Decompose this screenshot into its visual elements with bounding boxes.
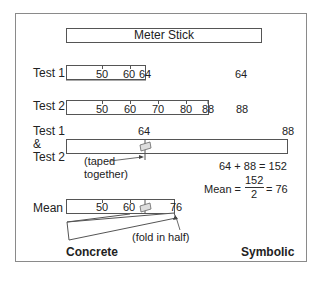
diagram-decorations — [0, 0, 319, 286]
arrow-icon — [110, 155, 144, 161]
folded-stick — [67, 213, 176, 240]
tape-icon-mean — [140, 203, 151, 212]
tape-icon — [140, 142, 151, 151]
